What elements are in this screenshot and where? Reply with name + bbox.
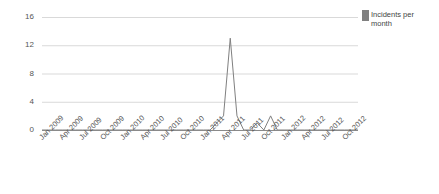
legend-swatch-icon xyxy=(362,10,369,21)
y-axis-tick-label: 16 xyxy=(12,13,34,21)
line-chart: 1612840 Jan 2009Apr 2009Jul 2009Oct 2009… xyxy=(0,0,439,194)
y-axis-tick-label: 8 xyxy=(12,70,34,78)
chart-legend: Incidents per month xyxy=(362,10,438,28)
legend-label: Incidents per month xyxy=(371,10,435,28)
y-axis-tick-label: 4 xyxy=(12,98,34,106)
y-axis-tick-label: 0 xyxy=(12,126,34,134)
y-axis-tick-label: 12 xyxy=(12,41,34,49)
chart-canvas xyxy=(0,0,439,194)
